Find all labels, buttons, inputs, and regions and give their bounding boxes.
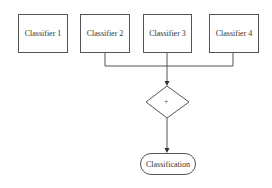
classifier-3-box: Classifier 3 — [143, 14, 192, 53]
classifier-2-box: Classifier 2 — [80, 14, 130, 53]
classifier-4-label: Classifier 4 — [216, 29, 253, 38]
classification-label: Classification — [146, 160, 190, 169]
classifier-3-label: Classifier 3 — [149, 29, 186, 38]
classifier-1-box: Classifier 1 — [18, 14, 68, 53]
plus-icon: + — [164, 98, 169, 106]
classifier-2-label: Classifier 2 — [87, 29, 124, 38]
classifier-4-box: Classifier 4 — [209, 14, 259, 53]
classification-output: Classification — [140, 153, 196, 175]
classifier-1-label: Classifier 1 — [25, 29, 62, 38]
arrowhead-icon — [165, 81, 170, 86]
